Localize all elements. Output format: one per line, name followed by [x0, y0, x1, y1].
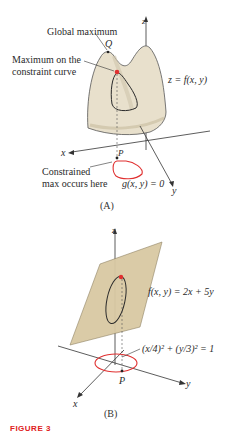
label-max-constraint-2: constraint curve	[12, 66, 76, 77]
label-x-axis-b: x	[73, 398, 77, 409]
label-p-a: P	[118, 148, 124, 159]
label-constraint-ellipse: (x/4)² + (y/3)² = 1	[142, 343, 214, 354]
label-z-axis-a: z	[142, 16, 146, 27]
caption-b: (B)	[104, 408, 117, 419]
y-axis-a	[140, 126, 172, 184]
label-max-constraint-1: Maximum on the	[12, 54, 81, 65]
label-global-maximum: Global maximum	[47, 26, 117, 37]
label-z-axis-b: z	[112, 225, 116, 236]
global-max-point	[107, 51, 110, 54]
panel-b-graphic	[58, 228, 186, 398]
figure-label: FIGURE 3	[10, 424, 51, 433]
constrained-max-point	[115, 70, 120, 75]
label-x-axis-a: x	[61, 147, 65, 158]
label-function-b: f(x, y) = 2x + 5y	[148, 286, 214, 297]
label-constrained-2: max occurs here	[42, 178, 108, 189]
label-y-axis-a: y	[172, 185, 176, 196]
label-constraint-g: g(x, y) = 0	[122, 178, 164, 189]
label-surface-eq: z = f(x, y)	[168, 74, 207, 85]
caption-a: (A)	[100, 200, 114, 211]
constraint-curve-g	[113, 161, 142, 179]
label-constrained-1: Constrained	[42, 166, 90, 177]
label-p-b: P	[119, 375, 125, 386]
label-q: Q	[105, 38, 112, 49]
label-y-axis-b: y	[186, 378, 190, 389]
panel-a-graphic	[68, 16, 210, 187]
max-point-b	[119, 275, 123, 279]
